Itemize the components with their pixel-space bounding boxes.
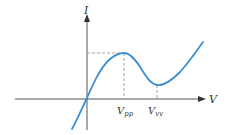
vvv-label-sub: vv — [155, 110, 163, 118]
vvv-label: Vvv — [148, 105, 163, 118]
svg-text:Vvv: Vvv — [148, 105, 163, 118]
svg-text:Vpp: Vpp — [117, 105, 134, 118]
i-axis — [84, 14, 90, 130]
vpp-label: Vpp — [117, 105, 134, 118]
vpp-label-sub: pp — [124, 110, 133, 118]
v-axis-label: V — [209, 93, 218, 106]
iv-curve — [72, 42, 203, 129]
v-axis — [15, 96, 206, 102]
iv-curve-diagram: I V Vpp Vvv — [0, 0, 228, 135]
peak-guides — [87, 53, 124, 99]
i-axis-label: I — [83, 4, 89, 17]
v-axis-arrow-icon — [198, 96, 206, 102]
